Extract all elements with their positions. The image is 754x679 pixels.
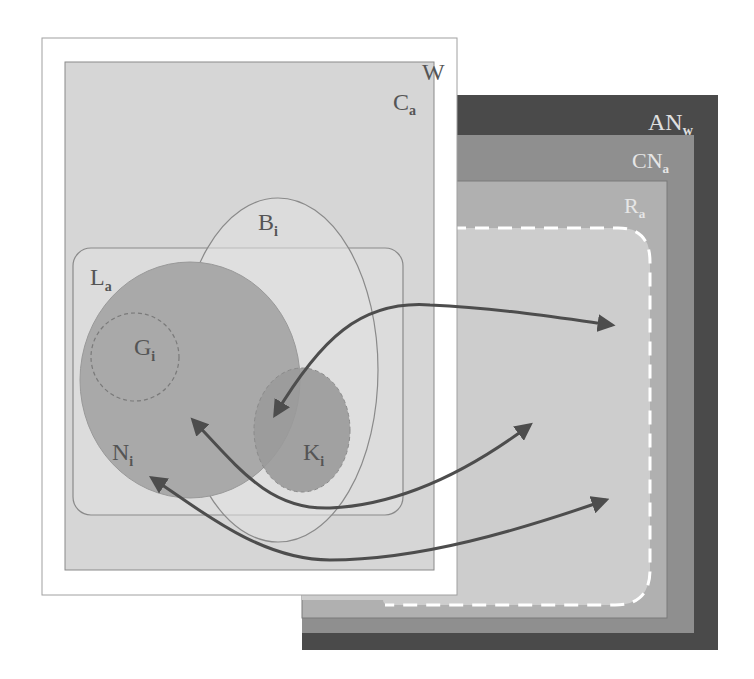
label-an-w: AN xyxy=(648,109,683,135)
label-b-i: B xyxy=(258,209,274,235)
diagram-canvas: W Ca ANw CNa Ra Bi La Gi Ni Ki xyxy=(0,0,754,679)
label-w: W xyxy=(422,59,445,85)
svg-text:W: W xyxy=(422,59,445,85)
label-l-a: L xyxy=(90,264,105,290)
label-k-i: K xyxy=(303,439,321,465)
label-cn-a: CN xyxy=(632,148,663,173)
label-g-i: G xyxy=(134,334,151,360)
label-r-a: R xyxy=(624,193,639,218)
label-c-a: C xyxy=(393,89,409,115)
label-n-i: N xyxy=(112,439,129,465)
k-i-circle xyxy=(254,368,350,492)
